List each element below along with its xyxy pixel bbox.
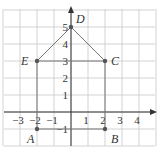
- point-B: [103, 127, 107, 131]
- point-label-E: E: [20, 54, 29, 68]
- y-axis-arrow-icon: [68, 6, 74, 13]
- y-tick-label: 2: [63, 72, 69, 84]
- y-tick-label: 4: [63, 38, 69, 50]
- x-tick-label: 1: [83, 114, 89, 126]
- point-D: [69, 25, 73, 29]
- coordinate-plane: −3−2−11234 12345−1 ABCDE: [0, 0, 160, 150]
- point-E: [35, 59, 39, 63]
- point-label-C: C: [111, 54, 120, 68]
- x-tick-label: −3: [12, 114, 24, 126]
- point-label-D: D: [75, 12, 85, 26]
- point-A: [35, 127, 39, 131]
- x-tick-label: 4: [134, 114, 140, 126]
- y-tick-label: 5: [63, 21, 69, 33]
- point-label-B: B: [111, 132, 119, 146]
- x-tick-labels: −3−2−11234: [12, 114, 140, 126]
- x-tick-label: 3: [117, 114, 123, 126]
- grid-lines: [3, 9, 156, 146]
- point-label-A: A: [26, 132, 35, 146]
- point-C: [103, 59, 107, 63]
- x-tick-label: −2: [29, 114, 41, 126]
- y-tick-label: 1: [63, 89, 69, 101]
